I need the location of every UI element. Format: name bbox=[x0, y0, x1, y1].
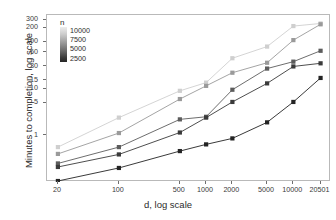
data-point-marker bbox=[265, 61, 269, 65]
data-point-marker bbox=[230, 100, 234, 104]
data-point-marker bbox=[178, 97, 182, 101]
data-point-marker bbox=[291, 38, 295, 42]
y-tick-mark bbox=[43, 41, 46, 42]
y-tick-label: 15 bbox=[8, 76, 38, 83]
y-tick-mark bbox=[43, 88, 46, 89]
y-tick-label: 60 bbox=[8, 48, 38, 55]
data-point-marker bbox=[318, 22, 322, 26]
y-tick-label: 30 bbox=[8, 62, 38, 69]
data-point-marker bbox=[230, 56, 234, 60]
legend-label: 5000 bbox=[70, 45, 86, 52]
x-tick-mark bbox=[118, 181, 119, 184]
x-tick-mark bbox=[179, 181, 180, 184]
data-point-marker bbox=[265, 44, 269, 48]
data-point-marker bbox=[56, 152, 60, 156]
x-tick-mark bbox=[292, 181, 293, 184]
data-point-marker bbox=[56, 165, 60, 169]
series-line bbox=[58, 51, 321, 164]
y-tick-label: 1 bbox=[8, 131, 38, 138]
data-point-marker bbox=[117, 116, 121, 120]
data-point-marker bbox=[117, 131, 121, 135]
y-tick-label: 100 bbox=[8, 37, 38, 44]
x-axis-title: d, log scale bbox=[0, 199, 336, 210]
data-point-marker bbox=[265, 66, 269, 70]
data-point-marker bbox=[265, 120, 269, 124]
data-point-marker bbox=[117, 152, 121, 156]
legend-gradient-bar bbox=[60, 27, 67, 62]
data-point-marker bbox=[230, 136, 234, 140]
y-tick-mark bbox=[43, 51, 46, 52]
data-point-marker bbox=[291, 64, 295, 68]
data-point-marker bbox=[291, 24, 295, 28]
data-point-marker bbox=[265, 81, 269, 85]
y-tick-label: 300 bbox=[8, 15, 38, 22]
x-tick-mark bbox=[320, 181, 321, 184]
legend: n 10000750050002500 bbox=[58, 18, 114, 64]
data-point-marker bbox=[56, 145, 60, 149]
data-point-marker bbox=[204, 84, 208, 88]
x-tick-mark bbox=[205, 181, 206, 184]
data-point-marker bbox=[117, 145, 121, 149]
y-tick-label: 200 bbox=[8, 23, 38, 30]
data-point-marker bbox=[204, 142, 208, 146]
x-tick-label: 100 bbox=[98, 186, 138, 193]
legend-label: 2500 bbox=[70, 55, 86, 62]
y-tick-mark bbox=[43, 65, 46, 66]
legend-label: 7500 bbox=[70, 36, 86, 43]
x-tick-mark bbox=[266, 181, 267, 184]
y-tick-mark bbox=[43, 19, 46, 20]
data-point-marker bbox=[178, 117, 182, 121]
data-point-marker bbox=[178, 89, 182, 93]
data-point-marker bbox=[230, 71, 234, 75]
x-tick-label: 20501 bbox=[300, 186, 336, 193]
legend-label: 10000 bbox=[70, 27, 90, 34]
y-tick-mark bbox=[43, 134, 46, 135]
y-tick-label: 10 bbox=[8, 84, 38, 91]
data-point-marker bbox=[178, 130, 182, 134]
data-point-marker bbox=[318, 61, 322, 65]
data-point-marker bbox=[117, 166, 121, 170]
y-tick-mark bbox=[43, 79, 46, 80]
y-tick-mark bbox=[43, 27, 46, 28]
x-tick-mark bbox=[57, 181, 58, 184]
x-tick-mark bbox=[231, 181, 232, 184]
series-line bbox=[58, 78, 321, 181]
data-point-marker bbox=[178, 149, 182, 153]
data-point-marker bbox=[204, 116, 208, 120]
data-point-marker bbox=[291, 60, 295, 64]
x-tick-label: 20 bbox=[37, 186, 77, 193]
data-point-marker bbox=[230, 88, 234, 92]
series-line bbox=[58, 63, 321, 167]
data-point-marker bbox=[318, 49, 322, 53]
y-tick-mark bbox=[43, 102, 46, 103]
legend-title: n bbox=[60, 18, 64, 27]
data-point-marker bbox=[291, 100, 295, 104]
chart-figure: Minutes to completion, log scale d, log … bbox=[0, 0, 336, 220]
data-point-marker bbox=[318, 76, 322, 80]
y-tick-label: 5 bbox=[8, 98, 38, 105]
